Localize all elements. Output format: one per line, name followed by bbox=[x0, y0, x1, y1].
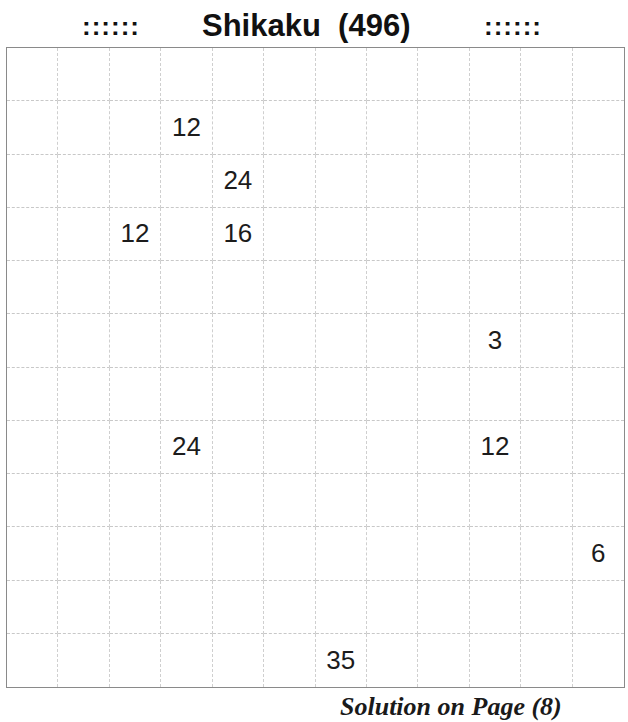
grid-cell-r7-c7[interactable] bbox=[367, 421, 418, 474]
grid-cell-r2-c3[interactable] bbox=[161, 155, 212, 208]
grid-cell-r10-c4[interactable] bbox=[213, 581, 264, 634]
grid-cell-r8-c1[interactable] bbox=[58, 474, 109, 527]
grid-cell-r8-c11[interactable] bbox=[573, 474, 624, 527]
grid-cell-r1-c2[interactable] bbox=[110, 101, 161, 154]
grid-cell-r1-c6[interactable] bbox=[316, 101, 367, 154]
grid-cell-r5-c7[interactable] bbox=[367, 314, 418, 367]
grid-cell-r9-c6[interactable] bbox=[316, 527, 367, 580]
grid-cell-r7-c10[interactable] bbox=[521, 421, 572, 474]
grid-cell-r9-c0[interactable] bbox=[7, 527, 58, 580]
grid-cell-r8-c9[interactable] bbox=[470, 474, 521, 527]
grid-cell-r6-c5[interactable] bbox=[264, 368, 315, 421]
grid-cell-r10-c1[interactable] bbox=[58, 581, 109, 634]
grid-cell-r3-c11[interactable] bbox=[573, 208, 624, 261]
grid-cell-r5-c11[interactable] bbox=[573, 314, 624, 367]
grid-cell-r10-c0[interactable] bbox=[7, 581, 58, 634]
clue-cell-r1-c3[interactable]: 12 bbox=[161, 101, 212, 154]
grid-cell-r5-c5[interactable] bbox=[264, 314, 315, 367]
clue-cell-r3-c2[interactable]: 12 bbox=[110, 208, 161, 261]
grid-cell-r7-c5[interactable] bbox=[264, 421, 315, 474]
grid-cell-r0-c8[interactable] bbox=[418, 48, 469, 101]
grid-cell-r0-c9[interactable] bbox=[470, 48, 521, 101]
grid-cell-r5-c2[interactable] bbox=[110, 314, 161, 367]
grid-cell-r1-c8[interactable] bbox=[418, 101, 469, 154]
grid-cell-r11-c9[interactable] bbox=[470, 634, 521, 687]
grid-cell-r2-c8[interactable] bbox=[418, 155, 469, 208]
grid-cell-r0-c7[interactable] bbox=[367, 48, 418, 101]
grid-cell-r5-c4[interactable] bbox=[213, 314, 264, 367]
grid-cell-r10-c3[interactable] bbox=[161, 581, 212, 634]
grid-cell-r0-c10[interactable] bbox=[521, 48, 572, 101]
grid-cell-r7-c8[interactable] bbox=[418, 421, 469, 474]
grid-cell-r4-c11[interactable] bbox=[573, 261, 624, 314]
grid-cell-r8-c4[interactable] bbox=[213, 474, 264, 527]
grid-cell-r0-c2[interactable] bbox=[110, 48, 161, 101]
grid-cell-r5-c6[interactable] bbox=[316, 314, 367, 367]
clue-cell-r7-c9[interactable]: 12 bbox=[470, 421, 521, 474]
grid-cell-r1-c4[interactable] bbox=[213, 101, 264, 154]
grid-cell-r7-c11[interactable] bbox=[573, 421, 624, 474]
clue-cell-r7-c3[interactable]: 24 bbox=[161, 421, 212, 474]
grid-cell-r0-c0[interactable] bbox=[7, 48, 58, 101]
grid-cell-r1-c7[interactable] bbox=[367, 101, 418, 154]
grid-cell-r2-c11[interactable] bbox=[573, 155, 624, 208]
grid-cell-r2-c7[interactable] bbox=[367, 155, 418, 208]
grid-cell-r9-c1[interactable] bbox=[58, 527, 109, 580]
grid-cell-r8-c8[interactable] bbox=[418, 474, 469, 527]
grid-cell-r6-c3[interactable] bbox=[161, 368, 212, 421]
grid-cell-r10-c9[interactable] bbox=[470, 581, 521, 634]
grid-cell-r6-c10[interactable] bbox=[521, 368, 572, 421]
grid-cell-r7-c1[interactable] bbox=[58, 421, 109, 474]
grid-cell-r6-c2[interactable] bbox=[110, 368, 161, 421]
grid-cell-r4-c9[interactable] bbox=[470, 261, 521, 314]
grid-cell-r1-c1[interactable] bbox=[58, 101, 109, 154]
grid-cell-r8-c6[interactable] bbox=[316, 474, 367, 527]
grid-cell-r10-c5[interactable] bbox=[264, 581, 315, 634]
grid-cell-r9-c3[interactable] bbox=[161, 527, 212, 580]
grid-cell-r9-c8[interactable] bbox=[418, 527, 469, 580]
grid-cell-r11-c8[interactable] bbox=[418, 634, 469, 687]
grid-cell-r5-c10[interactable] bbox=[521, 314, 572, 367]
grid-cell-r11-c2[interactable] bbox=[110, 634, 161, 687]
grid-cell-r1-c9[interactable] bbox=[470, 101, 521, 154]
grid-cell-r11-c0[interactable] bbox=[7, 634, 58, 687]
grid-cell-r5-c0[interactable] bbox=[7, 314, 58, 367]
grid-cell-r8-c2[interactable] bbox=[110, 474, 161, 527]
grid-cell-r10-c7[interactable] bbox=[367, 581, 418, 634]
grid-cell-r11-c3[interactable] bbox=[161, 634, 212, 687]
grid-cell-r9-c5[interactable] bbox=[264, 527, 315, 580]
grid-cell-r8-c3[interactable] bbox=[161, 474, 212, 527]
grid-cell-r2-c6[interactable] bbox=[316, 155, 367, 208]
grid-cell-r2-c5[interactable] bbox=[264, 155, 315, 208]
grid-cell-r0-c1[interactable] bbox=[58, 48, 109, 101]
grid-cell-r10-c10[interactable] bbox=[521, 581, 572, 634]
grid-cell-r9-c7[interactable] bbox=[367, 527, 418, 580]
grid-cell-r2-c0[interactable] bbox=[7, 155, 58, 208]
grid-cell-r7-c2[interactable] bbox=[110, 421, 161, 474]
grid-cell-r4-c0[interactable] bbox=[7, 261, 58, 314]
grid-cell-r4-c10[interactable] bbox=[521, 261, 572, 314]
grid-cell-r11-c10[interactable] bbox=[521, 634, 572, 687]
grid-cell-r1-c10[interactable] bbox=[521, 101, 572, 154]
grid-cell-r0-c11[interactable] bbox=[573, 48, 624, 101]
grid-cell-r6-c1[interactable] bbox=[58, 368, 109, 421]
grid-cell-r0-c6[interactable] bbox=[316, 48, 367, 101]
grid-cell-r0-c4[interactable] bbox=[213, 48, 264, 101]
grid-cell-r4-c7[interactable] bbox=[367, 261, 418, 314]
grid-cell-r10-c8[interactable] bbox=[418, 581, 469, 634]
grid-cell-r1-c5[interactable] bbox=[264, 101, 315, 154]
grid-cell-r11-c7[interactable] bbox=[367, 634, 418, 687]
grid-cell-r9-c2[interactable] bbox=[110, 527, 161, 580]
grid-cell-r8-c0[interactable] bbox=[7, 474, 58, 527]
grid-cell-r5-c1[interactable] bbox=[58, 314, 109, 367]
grid-cell-r8-c7[interactable] bbox=[367, 474, 418, 527]
grid-cell-r4-c1[interactable] bbox=[58, 261, 109, 314]
grid-cell-r3-c9[interactable] bbox=[470, 208, 521, 261]
grid-cell-r7-c4[interactable] bbox=[213, 421, 264, 474]
grid-cell-r8-c10[interactable] bbox=[521, 474, 572, 527]
grid-cell-r0-c5[interactable] bbox=[264, 48, 315, 101]
grid-cell-r2-c2[interactable] bbox=[110, 155, 161, 208]
grid-cell-r6-c6[interactable] bbox=[316, 368, 367, 421]
clue-cell-r9-c11[interactable]: 6 bbox=[573, 527, 624, 580]
grid-cell-r3-c1[interactable] bbox=[58, 208, 109, 261]
